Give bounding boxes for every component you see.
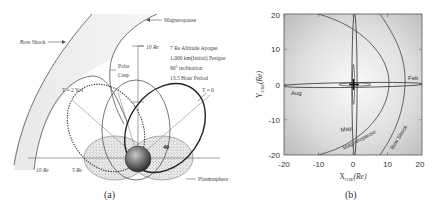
x-tick-neg20: -20 bbox=[278, 160, 290, 169]
panel-b-caption: (b) bbox=[345, 189, 357, 200]
orbit-info-apogee: 7 Re Altitude Apogee bbox=[170, 45, 218, 51]
y-tick-20: 20 bbox=[271, 11, 280, 20]
x-axis-label: XGSE(Re) bbox=[340, 172, 367, 182]
x-tick-neg10: -10 bbox=[313, 160, 325, 169]
polar-cap-label-line2: Cusp bbox=[118, 72, 130, 78]
earth-globe bbox=[125, 146, 151, 172]
t-2yrs-label: T = 2 Yrs bbox=[62, 87, 83, 93]
feb-label: Feb bbox=[408, 75, 419, 81]
panel-b-gse-orbit-plot: Feb Aug May Magnetopause Bow Shock 20 10… bbox=[230, 0, 435, 210]
y-axis-label: YGSE(Re) bbox=[255, 71, 265, 98]
x-tick-20: 20 bbox=[416, 160, 425, 169]
polar-cap-label-line1: Polar bbox=[118, 63, 130, 69]
y-axis-label-sub: GSE bbox=[260, 84, 265, 93]
x-axis-label-unit: (Re) bbox=[354, 172, 367, 181]
x-tick-10: 10 bbox=[383, 160, 392, 169]
ten-re-horizontal-label: 10 Re bbox=[36, 167, 49, 173]
panel-a-magnetosphere-schematic: Bow Shock Magnetopause 10 Re Polar Cusp … bbox=[0, 0, 230, 210]
y-tick-neg20: -20 bbox=[268, 151, 280, 160]
ten-re-vertical-label: 10 Re bbox=[146, 44, 159, 50]
y-tick-10: 10 bbox=[271, 45, 280, 54]
y-axis-label-unit: (Re) bbox=[255, 71, 264, 84]
plasmasphere-label: Plasmasphere bbox=[198, 176, 229, 182]
x-tick-0: 0 bbox=[351, 160, 356, 169]
x-axis-label-sub: GSE bbox=[345, 177, 354, 182]
magnetopause-label: Magnetopause bbox=[164, 17, 197, 23]
aug-label: Aug bbox=[291, 90, 302, 96]
y-tick-neg10: -10 bbox=[268, 116, 280, 125]
schematic-canvas: Bow Shock Magnetopause 10 Re Polar Cusp … bbox=[0, 0, 230, 210]
gse-plot-canvas: Feb Aug May Magnetopause Bow Shock 20 10… bbox=[230, 0, 435, 210]
five-re-label: 5 Re bbox=[72, 167, 82, 173]
angle-label: 40 bbox=[163, 144, 169, 150]
orbit-info-period: 13.5 Hour Period bbox=[170, 75, 208, 81]
panel-a-caption: (a) bbox=[104, 189, 115, 200]
orbit-info-inclination: 90° inclination bbox=[170, 65, 203, 71]
bow-shock-label: Bow Shock bbox=[20, 39, 46, 45]
orbit-info-perigee: 1,000 km(Initial) Perigee bbox=[170, 55, 226, 62]
t-0-label: T = 0 bbox=[202, 87, 214, 93]
y-tick-0: 0 bbox=[276, 81, 281, 90]
bow-shock-arrowhead bbox=[62, 40, 66, 44]
